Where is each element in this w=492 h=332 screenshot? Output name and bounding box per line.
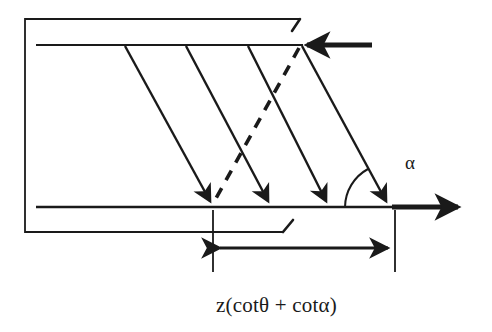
angle-alpha-label: α bbox=[405, 152, 415, 174]
width-formula-label: z(cotθ + cotα) bbox=[216, 293, 337, 318]
outline-corner-stub-bottom bbox=[283, 220, 293, 232]
outer-channel-outline bbox=[25, 19, 300, 232]
dimension-extension-lines bbox=[213, 210, 395, 272]
diagram-canvas: α z(cotθ + cotα) bbox=[0, 0, 492, 332]
angle-alpha-arc bbox=[345, 169, 368, 207]
outline-corner-stub-top bbox=[292, 19, 300, 31]
diagram-vector-graphic bbox=[0, 0, 492, 332]
